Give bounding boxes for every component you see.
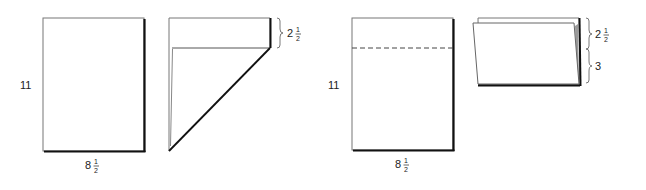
back-sheet-shadow xyxy=(580,18,581,86)
fold-label-numerator: 1 xyxy=(296,26,300,33)
top-strip-outline xyxy=(169,18,270,48)
height-label: 11 xyxy=(20,79,31,91)
width-label-denominator: 2 xyxy=(404,166,408,173)
width-label-numerator: 1 xyxy=(404,157,408,164)
figure-sheet-with-dashed-line: 11 8 1 2 xyxy=(328,18,455,173)
top-label-denominator: 2 xyxy=(604,36,608,43)
width-label-whole: 8 xyxy=(85,159,91,171)
sheet-outline xyxy=(43,18,144,151)
front-flap xyxy=(473,23,579,84)
top-label-numerator: 1 xyxy=(604,27,608,34)
paper-folding-diagram: 11 8 1 2 2 1 2 11 8 1 2 xyxy=(0,0,646,190)
fold-label-whole: 2 xyxy=(287,27,293,39)
fold-label-denominator: 2 xyxy=(296,35,300,42)
width-label-whole: 8 xyxy=(395,158,401,170)
sheet-outline xyxy=(352,18,453,150)
top-label-whole: 2 xyxy=(595,28,601,40)
figure-diagonal-fold: 2 1 2 xyxy=(169,18,301,151)
width-label-numerator: 1 xyxy=(94,158,98,165)
figure-folded-sheet: 2 1 2 3 xyxy=(473,18,609,86)
bottom-label: 3 xyxy=(595,60,601,72)
height-label: 11 xyxy=(328,79,339,91)
brace-icon-bottom xyxy=(586,49,592,83)
brace-icon xyxy=(277,18,283,48)
figure-flat-sheet: 11 8 1 2 xyxy=(20,18,146,174)
width-label-denominator: 2 xyxy=(94,167,98,174)
brace-icon-top xyxy=(586,18,592,49)
